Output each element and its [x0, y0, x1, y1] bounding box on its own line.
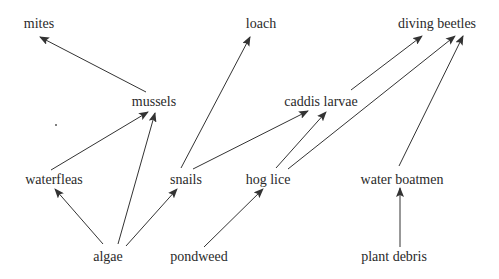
node-loach: loach	[246, 16, 276, 32]
arrow-snails-to-loach	[181, 37, 250, 168]
node-mussels: mussels	[132, 94, 176, 110]
arrow-pondweed-to-hog-lice	[204, 189, 263, 247]
node-waterfleas: waterfleas	[25, 172, 83, 188]
node-snails: snails	[170, 172, 202, 188]
arrow-snails-to-caddis-larvae	[193, 111, 308, 169]
node-diving-beetles: diving beetles	[398, 16, 476, 32]
arrow-caddis-larvae-to-diving-beetles	[351, 36, 422, 90]
node-pondweed: pondweed	[170, 249, 228, 265]
node-caddis-larvae: caddis larvae	[284, 94, 357, 110]
arrow-mussels-to-mites	[40, 37, 146, 92]
node-mites: mites	[24, 16, 54, 32]
arrow-algae-to-waterfleas	[55, 189, 103, 244]
food-web-diagram: mites loach diving beetles mussels caddi…	[0, 0, 499, 279]
arrow-hog-lice-to-caddis-larvae	[276, 112, 326, 168]
arrow-waterfleas-to-mussels	[51, 112, 148, 170]
node-algae: algae	[93, 249, 123, 265]
node-water-boatmen: water boatmen	[361, 172, 444, 188]
node-hog-lice: hog lice	[246, 172, 291, 188]
arrow-algae-to-snails	[126, 189, 177, 246]
stray-dot	[55, 124, 57, 126]
food-web-arrows	[0, 0, 499, 279]
arrow-algae-to-mussels	[118, 113, 155, 244]
node-plant-debris: plant debris	[361, 249, 427, 265]
